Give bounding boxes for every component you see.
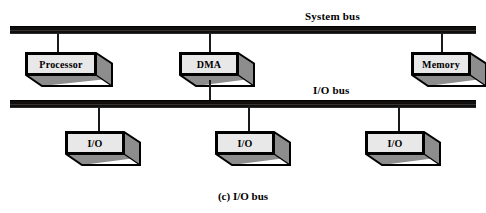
- node-io-device-2[interactable]: I/O: [216, 132, 290, 165]
- connector-io-bus-to-device-1: [98, 106, 100, 133]
- node-processor[interactable]: Processor: [26, 53, 112, 86]
- memory-label: Memory: [422, 59, 460, 70]
- node-memory[interactable]: Memory: [412, 53, 486, 86]
- figure-caption: (c) I/O bus: [0, 190, 486, 202]
- node-io-device-3[interactable]: I/O: [366, 132, 440, 165]
- processor-label: Processor: [39, 59, 82, 70]
- node-io-device-1[interactable]: I/O: [66, 132, 140, 165]
- node-dma[interactable]: DMA: [180, 53, 254, 86]
- figure-canvas: System bus Processor: [0, 0, 486, 213]
- io-device-1-front-face: I/O: [66, 132, 124, 154]
- io-device-2-label: I/O: [237, 138, 252, 149]
- io-bus-bar: [10, 100, 476, 108]
- io-device-3-front-face: I/O: [366, 132, 424, 154]
- dma-label: DMA: [197, 59, 221, 70]
- connector-io-bus-to-device-2: [248, 106, 250, 133]
- io-device-3-label: I/O: [387, 138, 402, 149]
- memory-box-front-face: Memory: [412, 53, 470, 75]
- system-bus-label: System bus: [305, 10, 360, 22]
- dma-box-front-face: DMA: [180, 53, 238, 75]
- io-bus-label: I/O bus: [313, 84, 350, 96]
- io-device-2-front-face: I/O: [216, 132, 274, 154]
- io-device-1-label: I/O: [87, 138, 102, 149]
- connector-system-bus-to-processor: [57, 32, 59, 54]
- connector-io-bus-to-device-3: [398, 106, 400, 133]
- system-bus-bar: [10, 26, 476, 34]
- connector-system-bus-to-dma: [209, 32, 211, 54]
- processor-box-front-face: Processor: [26, 53, 96, 75]
- connector-system-bus-to-memory: [441, 32, 443, 54]
